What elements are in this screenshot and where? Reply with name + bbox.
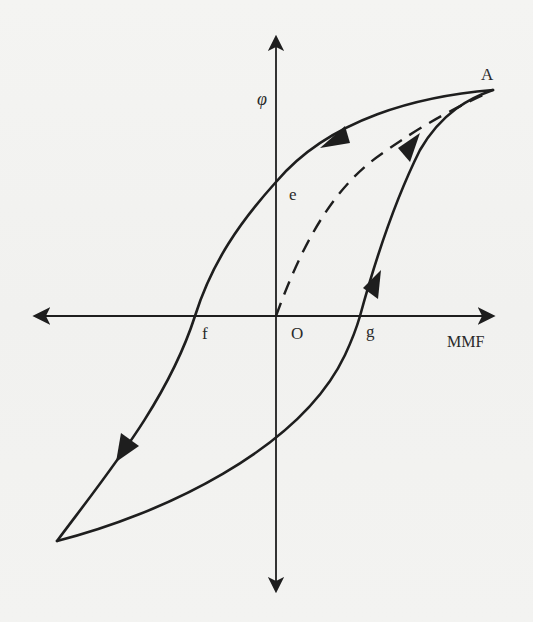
direction-arrow-descending-bottom-icon xyxy=(116,433,139,462)
point-label-g: g xyxy=(366,323,375,340)
point-label-e: e xyxy=(289,186,297,203)
x-axis-label: MMF xyxy=(447,334,484,350)
point-label-f: f xyxy=(202,325,208,342)
point-label-a: A xyxy=(481,66,493,83)
direction-arrow-descending-top-icon xyxy=(320,126,350,148)
initial-magnetization-curve xyxy=(276,92,490,316)
origin-label: O xyxy=(291,325,303,342)
y-axis-label: φ xyxy=(257,90,267,108)
